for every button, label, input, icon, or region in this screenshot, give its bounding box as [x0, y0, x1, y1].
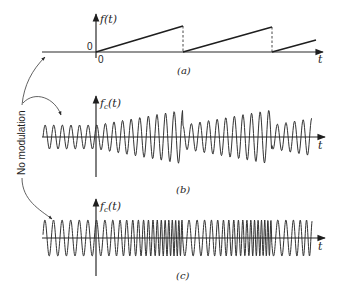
- panel-a-origin-y-label: 0: [87, 41, 93, 52]
- panel-c-y-label: fc(t): [99, 200, 121, 214]
- panel-b-t-label: t: [318, 139, 323, 152]
- panel-a-sawtooth: f(t) 0 0 t (a): [42, 13, 323, 76]
- sawtooth-signal: [96, 26, 316, 52]
- callout-arrow-to-a: [22, 57, 45, 105]
- callout-arrow-to-b: [23, 97, 61, 115]
- panel-b-caption: (b): [176, 184, 190, 195]
- no-modulation-callout: No modulation: [16, 57, 61, 219]
- panel-a-t-label: t: [318, 53, 323, 66]
- panel-c-fm: fc(t) t (c): [42, 199, 325, 281]
- panel-b-y-label: fc(t): [99, 97, 121, 111]
- panel-c-caption: (c): [176, 270, 190, 281]
- panel-a-origin-x-label: 0: [98, 54, 104, 65]
- panel-b-am: fc(t) t (b): [42, 96, 325, 195]
- panel-c-t-label: t: [318, 240, 323, 253]
- no-modulation-label: No modulation: [16, 111, 27, 175]
- panel-a-caption: (a): [177, 65, 191, 76]
- callout-arrow-to-c: [22, 178, 52, 219]
- panel-a-y-label: f(t): [99, 13, 117, 26]
- modulation-figure: f(t) 0 0 t (a) fc(t) t (b) fc(t) t (c) N…: [0, 0, 338, 296]
